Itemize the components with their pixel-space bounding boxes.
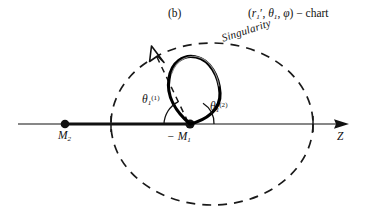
figure-canvas: (b) (r1′, θ1, φ) − chart Singularity θ1(… [0,0,367,219]
theta-1-sup: (1) [151,94,159,102]
mass-2-label: M2 [58,130,71,143]
theta-1-arc [164,102,178,124]
mass-2-sub: 2 [68,135,72,143]
mass-1-label: − M1 [167,131,191,144]
theta-2-sup: (2) [219,101,227,109]
figure-svg [0,0,367,219]
mass-2-point [61,120,70,129]
theta-1-label: θ1(1) [142,94,160,107]
mass-2-symbol: M [58,129,68,141]
z-axis-label: Z [337,131,343,143]
ray-arrowhead-icon [150,46,164,62]
z-axis-arrowhead-icon [334,119,349,129]
theta-2-label: θ1(2) [210,101,228,114]
mass-1-sub: 1 [187,136,191,144]
panel-label: (b) [168,8,181,20]
mass-1-symbol: − M [167,130,187,142]
chart-title-suffix: ) − chart [290,7,329,19]
radial-dashed-ray [155,53,188,122]
